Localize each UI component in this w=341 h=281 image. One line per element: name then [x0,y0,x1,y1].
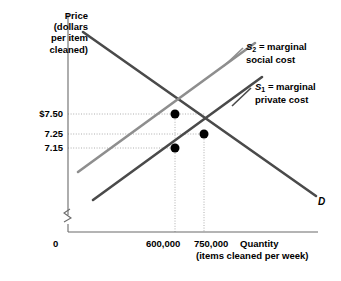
legend-s1-subscript: 1 [261,86,265,93]
legend-s2-line1: = marginal [259,41,307,52]
y-axis-title-line4: cleaned) [18,44,88,55]
origin-label: 0 [53,238,58,249]
legend-s2-line2: social cost [246,54,307,66]
y-tick-label-715: 7.15 [18,142,63,153]
x-tick-label-600k: 600,000 [146,238,180,249]
legend-s1-line1: = marginal [268,81,316,92]
marker-private-cost-at-optimum [171,144,180,153]
legend-s2-subscript: 2 [252,46,256,53]
axis-break-icon [64,209,71,222]
horizontal-gridlines [68,114,205,148]
x-tick-label-750k: 750,000 [194,238,228,249]
y-axis-title: Price (dollars per item cleaned) [18,10,88,55]
legend-s1-line2: private cost [255,94,316,106]
y-axis-title-line3: per item [18,32,88,43]
y-tick-label-750: $7.50 [18,108,63,119]
x-axis-title-line1: Quantity [240,238,279,249]
vertical-gridlines [175,114,204,232]
externality-chart: Price (dollars per item cleaned) $7.50 7… [0,0,341,281]
marginal-private-cost-curve [93,77,262,200]
y-axis-title-line2: (dollars [18,21,88,32]
demand-curve-label: D [318,196,325,207]
marker-social-optimum [171,110,180,119]
x-axis-title-line2: (items cleaned per week) [196,250,308,261]
s2-leader-line [224,48,243,66]
marker-market-equilibrium [200,130,209,139]
legend-s2: S2 = marginal social cost [246,41,307,65]
y-axis-title-line1: Price [18,10,88,21]
legend-s1: S1 = marginal private cost [255,81,316,105]
y-tick-label-725: 7.25 [18,128,63,139]
